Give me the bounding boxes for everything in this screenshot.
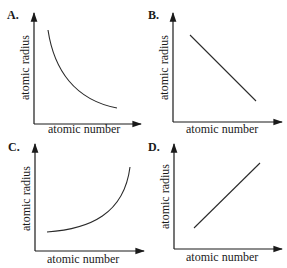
line-d bbox=[194, 163, 260, 228]
option-label-d: D. bbox=[148, 140, 160, 154]
panel-c: C. atomic number atomic radius bbox=[8, 140, 144, 266]
ylabel-d: atomic radius bbox=[158, 164, 172, 229]
xlabel-d: atomic number bbox=[186, 250, 258, 264]
curve-c bbox=[47, 167, 130, 232]
line-b bbox=[190, 35, 256, 101]
ylabel-b: atomic radius bbox=[157, 35, 171, 100]
panel-d: D. atomic number atomic radius bbox=[148, 140, 282, 264]
figure-canvas: A. atomic number atomic radius B. atomic… bbox=[0, 0, 287, 268]
option-label-c: C. bbox=[8, 140, 20, 154]
curve-a bbox=[48, 30, 117, 108]
ylabel-c: atomic radius bbox=[19, 166, 33, 231]
option-label-a: A. bbox=[7, 8, 19, 22]
xlabel-c: atomic number bbox=[47, 252, 119, 266]
panel-b: B. atomic number atomic radius bbox=[148, 8, 282, 136]
xlabel-a: atomic number bbox=[48, 122, 120, 136]
xlabel-b: atomic number bbox=[186, 122, 258, 136]
ylabel-a: atomic radius bbox=[18, 35, 32, 100]
panel-a: A. atomic number atomic radius bbox=[7, 8, 141, 136]
option-label-b: B. bbox=[148, 8, 159, 22]
